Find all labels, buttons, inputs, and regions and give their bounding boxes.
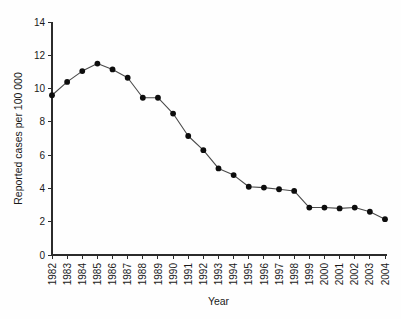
- y-tick-label: 8: [39, 116, 45, 127]
- x-tick-label: 1982: [47, 263, 58, 286]
- data-point-marker: 1983: 10.4: [64, 79, 70, 85]
- chart-page: 0246810121419821983198419851986198719881…: [0, 0, 401, 319]
- x-tick-label: 1995: [243, 263, 254, 286]
- x-tick-label: 1999: [304, 263, 315, 286]
- y-tick-label: 14: [34, 17, 46, 28]
- data-point-marker: 1996: 4.05: [261, 185, 267, 191]
- y-tick-label: 12: [34, 50, 46, 61]
- x-tick-label: 1986: [107, 263, 118, 286]
- data-point-marker: 2003: 2.6: [367, 209, 373, 215]
- x-tick-label: 2001: [334, 263, 345, 286]
- data-point-marker: 1986: 11.15: [110, 67, 116, 73]
- x-tick-label: 2002: [349, 263, 360, 286]
- data-point-marker: 1989: 9.45: [155, 95, 161, 101]
- data-point-marker: 1998: 3.85: [291, 188, 297, 194]
- data-point-marker: 2002: 2.85: [352, 205, 358, 211]
- x-tick-label: 1988: [137, 263, 148, 286]
- y-tick-label: 0: [39, 250, 45, 261]
- x-tick-label: 1994: [228, 263, 239, 286]
- x-tick-label: 1998: [289, 263, 300, 286]
- data-point-marker: 2000: 2.85: [322, 205, 328, 211]
- x-tick-label: 1990: [168, 263, 179, 286]
- x-tick-label: 2000: [319, 263, 330, 286]
- x-tick-label: 1985: [92, 263, 103, 286]
- line-chart: 0246810121419821983198419851986198719881…: [0, 0, 401, 319]
- x-tick-label: 2004: [380, 263, 391, 286]
- data-point-marker: 2004: 2.15: [382, 216, 388, 222]
- data-point-marker: 1985: 11.5: [95, 61, 101, 67]
- data-point-marker: 1993: 5.2: [216, 166, 222, 172]
- y-axis-title: Reported cases per 100 000: [12, 72, 24, 205]
- data-point-marker: 1990: 8.5: [170, 111, 176, 117]
- x-tick-label: 1997: [274, 263, 285, 286]
- data-point-marker: 1991: 7.15: [185, 133, 191, 139]
- x-tick-label: 1992: [198, 263, 209, 286]
- x-tick-label: 1983: [62, 263, 73, 286]
- y-tick-label: 6: [39, 150, 45, 161]
- data-point-marker: 1992: 6.3: [200, 147, 206, 153]
- data-point-marker: 1995: 4.1: [246, 184, 252, 190]
- data-point-marker: 1999: 2.85: [306, 205, 312, 211]
- data-point-marker: 1988: 9.45: [140, 95, 146, 101]
- data-point-marker: 1997: 3.95: [276, 186, 282, 192]
- x-tick-label: 1987: [122, 263, 133, 286]
- x-tick-label: 2003: [364, 263, 375, 286]
- data-point-marker: 1982: 9.6: [49, 92, 55, 98]
- series-line: [52, 64, 385, 220]
- x-tick-label: 1984: [77, 263, 88, 286]
- y-tick-label: 2: [39, 216, 45, 227]
- data-point-marker: 1994: 4.8: [231, 172, 237, 178]
- data-point-marker: 2001: 2.8: [337, 206, 343, 212]
- x-axis-title: Year: [208, 295, 230, 307]
- x-tick-label: 1989: [153, 263, 164, 286]
- x-tick-label: 1991: [183, 263, 194, 286]
- data-point-marker: 1984: 11.05: [79, 68, 85, 74]
- y-tick-label: 10: [34, 83, 46, 94]
- x-tick-label: 1993: [213, 263, 224, 286]
- data-point-marker: 1987: 10.65: [125, 75, 131, 81]
- x-tick-label: 1996: [259, 263, 270, 286]
- y-tick-label: 4: [39, 183, 45, 194]
